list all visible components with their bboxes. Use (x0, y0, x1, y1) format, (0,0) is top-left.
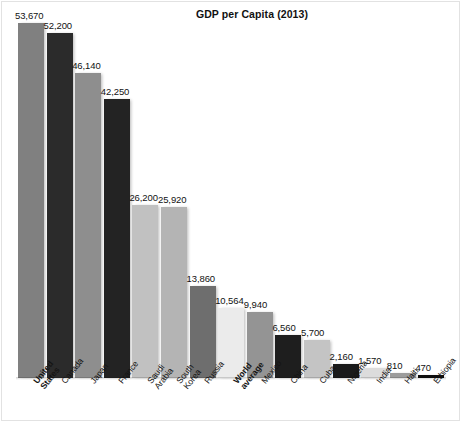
bar-group: 9,940 (247, 23, 273, 378)
bar-group: 10,564 (218, 23, 244, 378)
bar[interactable]: 53,670 (18, 23, 44, 378)
bar-value-label: 42,250 (101, 86, 129, 97)
bar[interactable]: 52,200 (47, 33, 73, 378)
bar-group: 5,700 (304, 23, 330, 378)
bar-value-label: 26,200 (129, 192, 157, 203)
bar[interactable]: 46,140 (75, 73, 101, 378)
bar-value-label: 5,700 (301, 327, 324, 338)
bar-group: 53,670 (18, 23, 44, 378)
bar-group: 26,200 (132, 23, 158, 378)
bar-value-label: 53,670 (15, 10, 43, 21)
bar-value-label: 9,940 (244, 299, 267, 310)
bar-value-label: 46,140 (72, 60, 100, 71)
bar-group: 2,160 (333, 23, 359, 378)
bar-group: 46,140 (75, 23, 101, 378)
x-axis-category-labels: United StatesCanadaJapanFranceSaudi Arab… (0, 378, 462, 423)
bar[interactable]: 26,200 (132, 205, 158, 378)
bar-group: 1,570 (361, 23, 387, 378)
bar-group: 810 (390, 23, 416, 378)
bar-value-label: 52,200 (44, 20, 72, 31)
bar[interactable]: 25,920 (161, 207, 187, 378)
gdp-per-capita-bar-chart: GDP per Capita (2013) 53,67052,20046,140… (0, 0, 462, 423)
bar-group: 52,200 (47, 23, 73, 378)
bar[interactable]: 13,860 (190, 286, 216, 378)
bar-group: 13,860 (190, 23, 216, 378)
bar-value-label: 6,560 (272, 322, 295, 333)
bar-value-label: 13,860 (187, 273, 215, 284)
bar-group: 25,920 (161, 23, 187, 378)
plot-area: 53,67052,20046,14042,25026,20025,92013,8… (0, 0, 462, 378)
bar-group: 470 (418, 23, 444, 378)
bar-group: 42,250 (104, 23, 130, 378)
bar-value-label: 25,920 (158, 194, 186, 205)
bar-value-label: 2,160 (330, 351, 353, 362)
bar-group: 6,560 (275, 23, 301, 378)
bar-value-label: 10,564 (215, 295, 243, 306)
bar[interactable]: 42,250 (104, 99, 130, 378)
